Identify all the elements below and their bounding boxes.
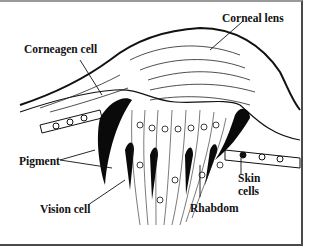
- label-rhabdom: Rhabdom: [190, 202, 239, 214]
- skin-cells-left: [40, 110, 102, 133]
- skin-cells-right: [225, 150, 300, 168]
- label-skin-cells-line1: Skin: [238, 172, 260, 184]
- pigment-masses: [98, 98, 250, 200]
- label-skin-cells-line2: cells: [238, 185, 259, 197]
- label-pigment: Pigment: [19, 155, 60, 167]
- label-corneagen-cell: Corneagen cell: [24, 43, 97, 55]
- label-vision-cell: Vision cell: [40, 203, 90, 215]
- outer-cornea-outline: [20, 28, 300, 110]
- label-corneal-lens: Corneal lens: [222, 12, 284, 24]
